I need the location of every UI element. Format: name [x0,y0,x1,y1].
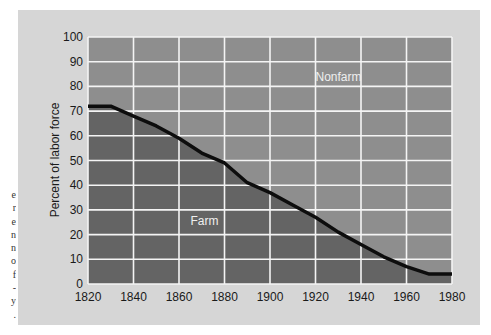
y-tick-label: 50 [70,154,84,168]
y-tick-label: 40 [70,178,84,192]
x-tick-label: 1860 [166,290,193,304]
y-tick-label: 10 [70,252,84,266]
farm-region-label: Farm [190,214,218,228]
y-axis-title: Percent of labor force [48,102,62,217]
x-tick-label: 1880 [211,290,238,304]
x-tick-label: 1980 [439,290,466,304]
y-tick-label: 0 [76,277,83,291]
x-tick-label: 1940 [348,290,375,304]
y-tick-label: 60 [70,129,84,143]
x-tick-label: 1960 [393,290,420,304]
y-tick-label: 70 [70,104,84,118]
nonfarm-region-label: Nonfarm [316,70,362,84]
x-tick-label: 1820 [75,290,102,304]
plot-area [88,37,452,284]
y-tick-label: 20 [70,228,84,242]
y-tick-label: 100 [63,30,83,44]
x-tick-label: 1900 [257,290,284,304]
chart-svg: 0102030405060708090100 18201840186018801… [0,0,491,335]
y-tick-label: 30 [70,203,84,217]
x-axis-ticks: 182018401860188019001920194019601980 [75,290,466,304]
x-tick-label: 1920 [302,290,329,304]
y-tick-label: 80 [70,79,84,93]
y-tick-label: 90 [70,55,84,69]
x-tick-label: 1840 [120,290,147,304]
y-axis-ticks: 0102030405060708090100 [63,30,83,291]
